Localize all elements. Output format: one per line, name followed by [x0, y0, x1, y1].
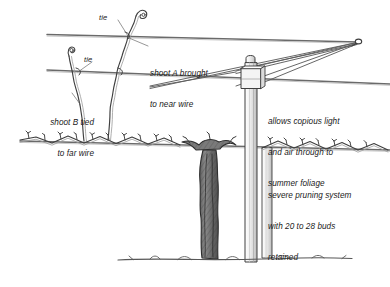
light-air-label-line2: and air through to [268, 148, 340, 158]
vine-trellis-diagram: tie tie shoot A brought to near wire sho… [0, 0, 390, 287]
tie-marks [76, 32, 129, 75]
top-wire [47, 35, 358, 44]
middle-wire [47, 70, 390, 85]
pruning-label: severe pruning system with 20 to 28 buds… [268, 170, 351, 284]
shoot-a-leader-line [129, 38, 148, 46]
shoot-a-label-line2: to near wire [150, 100, 208, 110]
tie-upper-label: tie [99, 13, 107, 22]
tie-lower-label: tie [84, 55, 92, 64]
pruning-label-line2: with 20 to 28 buds [268, 222, 351, 232]
shoot-a-label-line1: shoot A brought [150, 69, 208, 79]
vine-trunk [182, 140, 236, 259]
shoot-b-label-line1: shoot B tied [8, 118, 94, 128]
shoot-b-label: shoot B tied to far wire [8, 97, 94, 180]
tie-leader-lines [78, 20, 128, 72]
light-air-label-line1: allows copious light [268, 117, 340, 127]
pruning-label-line3: retained [268, 253, 351, 263]
cross-arm [241, 66, 265, 89]
shoot-b-label-line2: to far wire [8, 149, 94, 159]
shoot-a-label: shoot A brought to near wire [150, 48, 208, 131]
pruning-label-line1: severe pruning system [268, 191, 351, 201]
